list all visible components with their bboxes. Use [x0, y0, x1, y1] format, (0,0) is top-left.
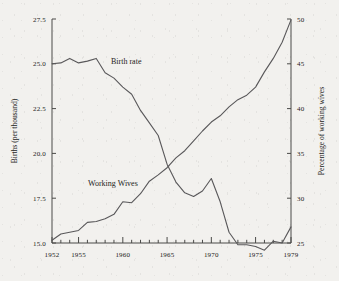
right-axis-ticks [287, 19, 291, 243]
left-tick-label: 22.5 [33, 105, 46, 113]
x-tick-label: 1979 [284, 251, 299, 259]
left-tick-label: 20.0 [33, 150, 46, 158]
bottom-axis-ticks [52, 237, 291, 243]
dual-axis-line-chart: 27.525.022.520.017.515.0 504540353025 19… [0, 0, 339, 281]
x-tick-label: 1965 [160, 251, 175, 259]
left-axis-ticks [52, 19, 56, 243]
right-tick-label: 50 [297, 16, 305, 24]
plot-frame [52, 19, 291, 243]
working-wives-line [52, 20, 291, 240]
working-wives-annotation: Working Wives [88, 179, 138, 188]
right-axis-title: Percentage of working wives [317, 87, 326, 175]
left-tick-label: 15.0 [33, 240, 46, 248]
left-tick-label: 25.0 [33, 60, 46, 68]
right-axis-tick-labels: 504540353025 [297, 16, 305, 248]
x-tick-label: 1970 [204, 251, 219, 259]
right-tick-label: 45 [297, 60, 305, 68]
right-tick-label: 30 [297, 195, 305, 203]
left-axis-tick-labels: 27.525.022.520.017.515.0 [33, 16, 46, 248]
x-axis-tick-labels: 1952195519601965197019751979 [45, 251, 299, 259]
x-tick-label: 1960 [115, 251, 130, 259]
x-tick-label: 1955 [71, 251, 86, 259]
chart-figure: 27.525.022.520.017.515.0 504540353025 19… [0, 0, 339, 281]
right-tick-label: 40 [297, 105, 305, 113]
series-paths [52, 20, 291, 250]
left-tick-label: 27.5 [33, 16, 46, 24]
right-tick-label: 35 [297, 150, 305, 158]
left-tick-label: 17.5 [33, 195, 46, 203]
x-tick-label: 1952 [45, 251, 60, 259]
right-tick-label: 25 [297, 240, 305, 248]
left-axis-title: Births (per thousand) [10, 98, 19, 163]
birth-rate-annotation: Birth rate [111, 57, 142, 66]
x-tick-label: 1975 [248, 251, 263, 259]
